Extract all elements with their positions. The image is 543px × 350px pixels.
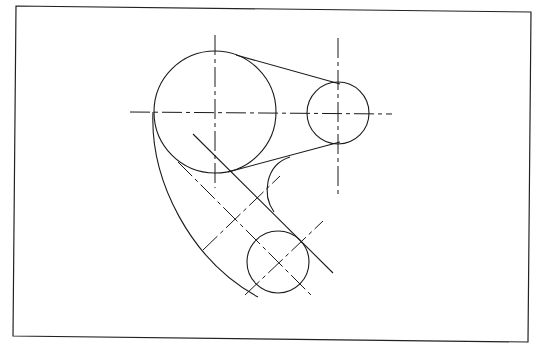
drawing-frame xyxy=(13,6,531,342)
circles-group xyxy=(154,51,369,293)
arc-inner-fillet xyxy=(267,157,290,212)
line-diagonal-edge xyxy=(193,134,333,273)
drawing-canvas xyxy=(0,0,543,350)
line-tangent-bottom xyxy=(228,142,340,172)
arc-outer-arc xyxy=(153,112,258,297)
centerline-diagonal-arc-center xyxy=(178,162,311,295)
line-tangent-top xyxy=(236,55,340,84)
centerline-horizontal-main xyxy=(130,112,392,114)
centerlines-group xyxy=(130,35,392,295)
